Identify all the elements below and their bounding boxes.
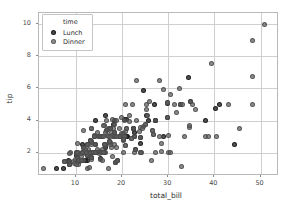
- data-point: [108, 126, 113, 131]
- data-point: [262, 22, 267, 27]
- data-point: [166, 133, 171, 138]
- data-point: [119, 115, 124, 120]
- y-axis-label: tip: [5, 94, 14, 104]
- x-tick-mark: [121, 175, 122, 177]
- data-point: [177, 86, 182, 91]
- y-tick-mark: [36, 87, 38, 88]
- gridline-horizontal: [39, 121, 277, 122]
- data-point: [161, 87, 166, 92]
- legend-item-lunch[interactable]: Lunch: [48, 28, 85, 37]
- data-point: [138, 135, 143, 140]
- data-point: [124, 126, 129, 131]
- x-tick-label: 30: [163, 180, 171, 187]
- x-tick-label: 50: [255, 180, 263, 187]
- gridline-horizontal: [39, 56, 277, 57]
- data-point: [87, 165, 92, 170]
- y-tick-mark: [36, 55, 38, 56]
- legend-label-dinner: Dinner: [63, 38, 85, 46]
- data-point: [150, 128, 155, 133]
- data-point: [186, 75, 191, 80]
- x-tick-mark: [75, 175, 76, 177]
- legend-item-dinner[interactable]: Dinner: [48, 37, 85, 46]
- data-point: [114, 118, 119, 123]
- data-point: [250, 38, 255, 43]
- data-point: [121, 137, 126, 142]
- data-point: [188, 99, 193, 104]
- data-point: [67, 151, 72, 156]
- data-point: [130, 102, 135, 107]
- data-point: [214, 134, 219, 139]
- data-point: [138, 141, 143, 146]
- data-point: [209, 61, 214, 66]
- legend-marker-icon-dinner: [51, 39, 56, 44]
- legend-title: time: [48, 18, 85, 26]
- data-point: [179, 164, 184, 169]
- x-tick-mark: [213, 175, 214, 177]
- data-point: [144, 107, 149, 112]
- gridline-vertical: [214, 13, 215, 174]
- data-point: [110, 154, 115, 159]
- data-point: [203, 118, 208, 123]
- x-tick-mark: [260, 175, 261, 177]
- data-point: [123, 143, 128, 148]
- data-point: [89, 126, 94, 131]
- data-point: [127, 119, 132, 124]
- data-point: [93, 150, 98, 155]
- data-point: [101, 134, 106, 139]
- data-point: [100, 158, 105, 163]
- data-point: [165, 100, 170, 105]
- legend-label-lunch: Lunch: [63, 29, 82, 37]
- data-point: [140, 126, 145, 131]
- data-point: [93, 118, 98, 123]
- data-point: [174, 110, 179, 115]
- legend[interactable]: time Lunch Dinner: [42, 14, 93, 51]
- data-point: [180, 102, 185, 107]
- data-point: [165, 115, 170, 120]
- data-point: [151, 132, 156, 137]
- data-point: [129, 136, 134, 141]
- data-point: [41, 166, 46, 171]
- data-point: [127, 113, 132, 118]
- data-point: [141, 88, 146, 93]
- y-tick-mark: [36, 23, 38, 24]
- data-point: [232, 142, 237, 147]
- x-tick-mark: [167, 175, 168, 177]
- data-point: [172, 102, 177, 107]
- data-point: [61, 166, 66, 171]
- data-point: [149, 158, 154, 163]
- data-point: [226, 102, 231, 107]
- data-point: [153, 150, 158, 155]
- data-point: [133, 147, 138, 152]
- data-point: [250, 102, 255, 107]
- gridline-horizontal: [39, 88, 277, 89]
- data-point: [143, 122, 148, 127]
- x-tick-label: 10: [71, 180, 79, 187]
- data-point: [112, 130, 117, 135]
- data-point: [206, 134, 211, 139]
- x-axis-label: total_bill: [0, 191, 294, 200]
- data-point: [145, 113, 150, 118]
- data-point: [81, 128, 86, 133]
- x-axis-label-text: total_bill: [150, 191, 182, 200]
- data-point: [147, 99, 152, 104]
- data-point: [115, 158, 120, 163]
- data-point: [157, 78, 162, 83]
- data-point: [182, 134, 187, 139]
- data-point: [217, 102, 222, 107]
- data-point: [134, 78, 139, 83]
- data-point: [213, 106, 218, 111]
- data-point: [114, 145, 119, 150]
- data-point: [250, 74, 255, 79]
- data-point: [121, 150, 126, 155]
- data-point: [54, 166, 59, 171]
- data-point: [67, 162, 72, 167]
- data-point: [75, 141, 80, 146]
- data-point: [107, 139, 112, 144]
- scatter-plot-figure: 1020304050246810 total_bill tip time Lun…: [0, 0, 294, 212]
- data-point: [152, 102, 157, 107]
- data-point: [168, 150, 173, 155]
- data-point: [237, 126, 242, 131]
- data-point: [104, 118, 109, 123]
- y-tick-mark: [36, 120, 38, 121]
- y-tick-mark: [36, 152, 38, 153]
